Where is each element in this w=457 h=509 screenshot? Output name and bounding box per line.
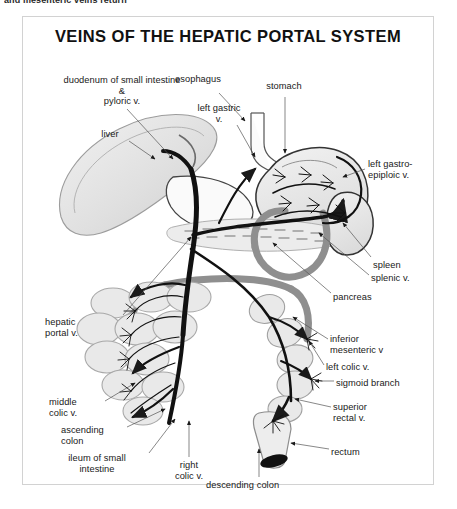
label-left-colic-vein: left colic v.: [326, 362, 369, 373]
label-stomach: stomach: [251, 81, 317, 92]
label-left-gastric-vein: left gastric v.: [186, 103, 252, 124]
label-liver: liver: [85, 129, 135, 140]
label-sigmoid-branch: sigmoid branch: [336, 378, 400, 389]
label-pancreas: pancreas: [333, 292, 372, 303]
label-inferior-mesenteric-vein: inferior mesenteric v: [330, 334, 383, 355]
label-right-colic-vein: right colic v.: [163, 460, 215, 481]
page-top-caption: and mesenteric veins return: [4, 0, 234, 5]
label-descending-colon: descending colon: [206, 480, 279, 491]
label-middle-colic-vein: middle colic v.: [49, 397, 77, 418]
label-hepatic-portal-vein: hepatic portal v.: [45, 317, 78, 338]
label-superior-rectal-vein: superior rectal v.: [333, 402, 367, 423]
figure-frame: VEINS OF THE HEPATIC PORTAL SYSTEM: [22, 16, 434, 485]
label-spleen: spleen: [373, 260, 401, 271]
organ-shapes: [60, 113, 374, 470]
label-splenic-vein: splenic v.: [371, 273, 410, 284]
label-ileum: ileum of small intestine: [45, 453, 149, 474]
label-left-gastroepiploic-vein: left gastro- epiploic v.: [368, 159, 413, 180]
label-esophagus: esophagus: [158, 74, 238, 85]
label-ascending-colon: ascending colon: [61, 425, 104, 446]
label-rectum: rectum: [331, 447, 360, 458]
